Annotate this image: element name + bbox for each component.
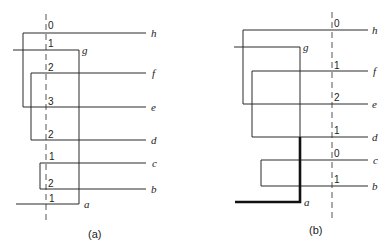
leaf-b: b [372,180,378,192]
count-label: 3 [48,96,54,107]
leaf-c: c [373,154,378,166]
leaf-h: h [151,27,157,39]
leaf-a: a [304,196,310,208]
leaf-c: c [152,157,157,169]
panel-b: 0 1 2 1 0 1 h g f e d c b a (b) [234,12,378,236]
count-label: 1 [49,193,55,204]
panel-a: 0 1 2 3 2 1 2 1 h g f e d c b a (a) [13,14,157,240]
leaf-d: d [372,131,378,143]
caption-a: (a) [88,228,101,240]
leaf-f: f [152,67,157,79]
tree-diagrams: 0 1 2 3 2 1 2 1 h g f e d c b a (a) 0 1 … [0,0,388,251]
count-label: 2 [48,62,54,73]
caption-b: (b) [309,224,322,236]
count-label: 0 [334,18,340,29]
leaf-g: g [303,41,309,53]
edge-g [234,47,300,137]
highlighted-path-a [235,137,300,202]
leaf-e: e [151,101,156,113]
leaf-e: e [372,98,377,110]
leaf-h: h [372,24,378,36]
count-label: 2 [48,129,54,140]
count-label: 2 [334,92,340,103]
count-label: 1 [49,151,55,162]
count-label: 1 [48,38,54,49]
leaf-b: b [151,183,157,195]
count-label: 2 [48,178,54,189]
count-label: 0 [48,20,54,31]
count-label: 0 [334,148,340,159]
edge-c-b [40,163,146,189]
leaf-d: d [151,134,157,146]
leaf-a: a [84,198,90,210]
count-label: 1 [334,174,340,185]
edge-c-b [261,160,368,186]
leaf-f: f [373,65,378,77]
count-label: 1 [334,125,340,136]
leaf-g: g [82,44,88,56]
count-label: 1 [334,60,340,71]
